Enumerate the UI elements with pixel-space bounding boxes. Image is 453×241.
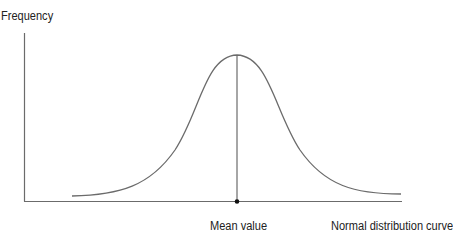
- mean-value-label: Mean value: [210, 219, 267, 233]
- mean-dot: [235, 199, 240, 204]
- curve-label: Normal distribution curve: [331, 219, 453, 233]
